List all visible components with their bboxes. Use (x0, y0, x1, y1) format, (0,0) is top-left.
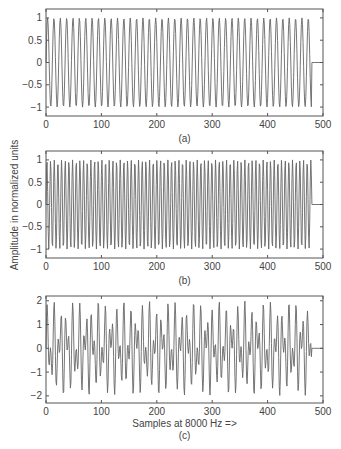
x-tick-label: 0 (43, 406, 49, 417)
y-tick-label: 0 (36, 57, 42, 68)
x-tick-label: 200 (148, 406, 165, 417)
y-tick-label: −0.5 (22, 221, 42, 232)
plot-panel-c: 0100200300400500210−1−2Samples at 8000 H… (31, 295, 332, 441)
x-tick-label: 100 (93, 406, 110, 417)
y-tick-label: 0 (36, 199, 42, 210)
y-tick-label: −1 (31, 367, 43, 378)
y-tick-label: 1 (36, 319, 42, 330)
waveform-line (46, 18, 323, 107)
y-tick-label: 0 (36, 343, 42, 354)
x-tick-label: 200 (148, 261, 165, 272)
x-tick-label: 500 (315, 261, 332, 272)
y-tick-label: 0.5 (28, 177, 42, 188)
y-tick-label: −1 (31, 244, 43, 255)
panel-caption: (b) (178, 275, 190, 286)
y-tick-label: 0.5 (28, 35, 42, 46)
x-tick-label: 400 (259, 406, 276, 417)
y-tick-label: 2 (36, 295, 42, 306)
waveform-line (46, 160, 323, 249)
y-tick-label: −1 (31, 102, 43, 113)
x-tick-label: 300 (204, 119, 221, 130)
figure-canvas: 010020030040050010.50−0.5−1(a) 010020030… (0, 0, 341, 449)
x-tick-label: 100 (93, 261, 110, 272)
x-tick-label: 100 (93, 119, 110, 130)
y-tick-label: −0.5 (22, 79, 42, 90)
x-tick-label: 200 (148, 119, 165, 130)
x-tick-label: 400 (259, 119, 276, 130)
waveform-line (46, 301, 323, 395)
x-tick-label: 0 (43, 119, 49, 130)
x-tick-label: 0 (43, 261, 49, 272)
x-tick-label: 300 (204, 406, 221, 417)
plot-panel-b: 010020030040050010.50−0.5−1(b) (22, 151, 332, 286)
panel-caption: (a) (178, 133, 190, 144)
y-axis-title: Amplitude in normalized units (9, 140, 20, 271)
x-axis-title: Samples at 8000 Hz => (132, 418, 237, 429)
x-tick-label: 500 (315, 406, 332, 417)
panel-caption: (c) (179, 430, 191, 441)
x-tick-label: 300 (204, 261, 221, 272)
y-tick-label: 1 (36, 12, 42, 23)
y-tick-label: −2 (31, 390, 43, 401)
plot-panel-a: 010020030040050010.50−0.5−1(a) (22, 9, 332, 144)
y-tick-label: 1 (36, 154, 42, 165)
x-tick-label: 400 (259, 261, 276, 272)
x-tick-label: 500 (315, 119, 332, 130)
